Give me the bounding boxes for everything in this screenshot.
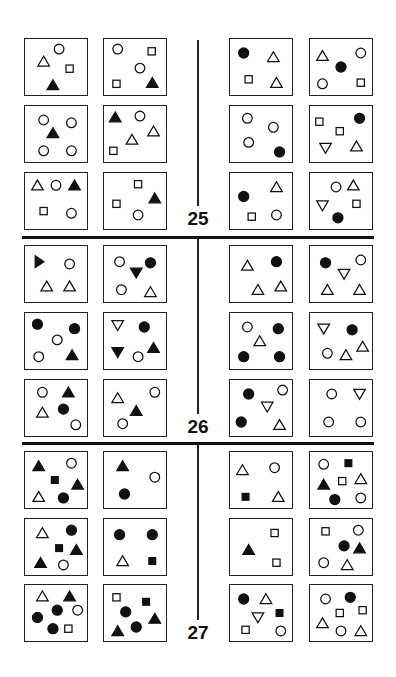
circle-open-shape [269, 122, 279, 132]
panel-26-left-2 [103, 245, 167, 303]
square-filled-shape [345, 460, 352, 467]
circle-open-shape [34, 352, 44, 362]
circle-open-shape [270, 463, 280, 473]
circle-filled-shape [273, 324, 283, 334]
triangle-open-shape [317, 618, 329, 628]
vertical-divider [197, 444, 199, 620]
triangle-down-filled-shape [130, 268, 142, 278]
square-open-shape [110, 147, 117, 154]
triangle-open-shape [37, 591, 49, 601]
triangle-down-open-shape [112, 321, 124, 331]
circle-filled-shape [131, 622, 141, 632]
circle-filled-shape [239, 352, 249, 362]
panel-27-right-3 [229, 518, 293, 576]
square-filled-shape [242, 493, 249, 500]
triangle-open-shape [322, 284, 334, 294]
panel-25-left-6 [103, 172, 167, 230]
circle-open-shape [135, 63, 145, 73]
square-open-shape [353, 200, 360, 207]
panel-figure [104, 585, 166, 641]
triangle-down-open-shape [261, 402, 273, 412]
panel-27-left-4 [103, 518, 167, 576]
panel-figure [230, 519, 292, 575]
circle-filled-shape [333, 213, 343, 223]
panel-26-right-6 [309, 379, 373, 437]
panel-figure [25, 106, 87, 162]
square-open-shape [359, 607, 366, 614]
circle-filled-shape [345, 592, 355, 602]
triangle-filled-shape [112, 626, 124, 636]
circle-open-shape [353, 525, 363, 535]
square-open-shape [248, 213, 255, 220]
circle-open-shape [356, 417, 366, 427]
triangle-open-shape [271, 77, 283, 87]
circle-filled-shape [52, 605, 62, 615]
square-open-shape [336, 609, 343, 616]
square-open-shape [113, 80, 120, 87]
square-open-shape [242, 626, 249, 633]
panel-26-right-5 [229, 379, 293, 437]
panel-25-right-3 [229, 105, 293, 163]
panel-27-left-5 [24, 584, 88, 642]
panel-figure [230, 39, 292, 95]
square-open-shape [40, 207, 47, 214]
panel-27-right-1 [229, 451, 293, 509]
panel-25-left-4 [103, 105, 167, 163]
panel-25-right-6 [309, 172, 373, 230]
panel-figure [25, 452, 87, 508]
panel-figure [104, 173, 166, 229]
square-filled-shape [56, 545, 63, 552]
triangle-open-shape [271, 182, 283, 192]
square-open-shape [66, 65, 73, 72]
panel-figure [25, 519, 87, 575]
triangle-open-shape [274, 420, 286, 430]
panel-26-right-3 [229, 312, 293, 370]
circle-open-shape [327, 389, 337, 399]
circle-open-shape [356, 255, 366, 265]
circle-open-shape [133, 210, 143, 220]
square-open-shape [245, 76, 252, 83]
panel-figure [25, 380, 87, 436]
square-open-shape [113, 200, 120, 207]
square-filled-shape [149, 558, 156, 565]
circle-filled-shape [66, 525, 76, 535]
circle-filled-shape [239, 594, 249, 604]
circle-open-shape [319, 459, 329, 469]
triangle-down-open-shape [318, 324, 330, 334]
triangle-open-shape [357, 341, 369, 351]
triangle-open-shape [41, 281, 53, 291]
circle-open-shape [331, 182, 341, 192]
circle-open-shape [336, 626, 346, 636]
circle-filled-shape [321, 258, 331, 268]
panel-figure [310, 380, 372, 436]
panel-figure [104, 106, 166, 162]
circle-filled-shape [58, 493, 68, 503]
triangle-filled-shape [35, 557, 47, 567]
panel-27-right-6 [309, 584, 373, 642]
panel-26-left-5 [24, 379, 88, 437]
section-divider [22, 442, 374, 445]
triangle-filled-shape [47, 128, 59, 138]
circle-open-shape [67, 146, 77, 156]
circle-open-shape [59, 560, 69, 570]
panel-figure [25, 246, 87, 302]
panel-figure [104, 246, 166, 302]
circle-filled-shape [119, 489, 129, 499]
panel-27-right-2 [309, 451, 373, 509]
square-open-shape [339, 477, 346, 484]
panel-figure [230, 246, 292, 302]
circle-open-shape [321, 594, 331, 604]
triangle-filled-shape [63, 387, 75, 397]
triangle-open-shape [145, 287, 157, 297]
panel-figure [104, 452, 166, 508]
circle-open-shape [272, 210, 282, 220]
circle-filled-shape [147, 530, 157, 540]
circle-open-shape [318, 79, 328, 89]
circle-filled-shape [236, 417, 246, 427]
triangle-filled-shape [33, 461, 45, 471]
panel-figure [25, 313, 87, 369]
triangle-down-open-shape [354, 389, 366, 399]
circle-filled-shape [48, 624, 58, 634]
panel-figure [310, 585, 372, 641]
triangle-open-shape [341, 560, 353, 570]
